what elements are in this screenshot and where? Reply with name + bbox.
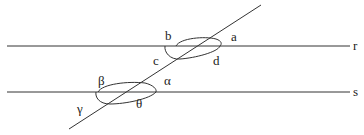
transversal-line: [69, 5, 261, 129]
angle-arc-bottom-lower: [96, 92, 156, 104]
angle-label-theta: θ: [136, 96, 142, 111]
angle-label-beta: β: [98, 73, 105, 88]
angle-label-c: c: [153, 53, 159, 68]
parallel-lines-transversal-diagram: r s b a c d β α γ θ: [0, 0, 364, 135]
angle-label-a: a: [231, 29, 237, 44]
label-line-s: s: [353, 84, 358, 99]
angle-arc-top-lower: [165, 46, 220, 59]
angle-label-d: d: [213, 53, 220, 68]
angle-label-b: b: [165, 28, 172, 43]
label-line-r: r: [353, 38, 358, 53]
angle-label-alpha: α: [164, 73, 171, 88]
angle-label-gamma: γ: [76, 101, 83, 116]
angle-arc-bottom-upper: [98, 82, 156, 92]
